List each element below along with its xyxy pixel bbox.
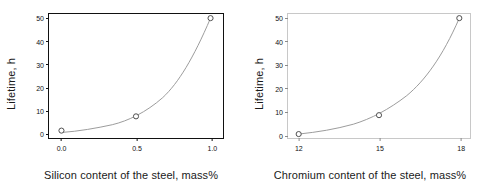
figure-two-panel-charts: Lifetime, h 0 10 20 30 40 50 0.0 0.5 1.0… [0,0,492,187]
y-tick-label: 40 [275,38,288,45]
y-axis-title-left-text: Lifetime, h [5,58,17,110]
y-tick-label: 50 [36,15,49,22]
data-point-marker [208,16,213,21]
x-tick-label: 18 [457,138,465,152]
plot-area-silicon: 0 10 20 30 40 50 0.0 0.5 1.0 [48,13,224,139]
y-tick-label: 40 [36,38,49,45]
data-point-marker [133,114,138,119]
y-axis-title-right-text: Lifetime, h [253,58,265,110]
chart-panel-chromium: Lifetime, h 0 10 20 30 40 50 12 15 18 Ch… [246,0,492,187]
x-tick-label: 1.0 [208,138,218,152]
data-point-marker [457,16,462,21]
x-axis-title-right: Chromium content of the steel, mass% [254,169,486,181]
y-axis-title-left: Lifetime, h [2,14,20,154]
data-point-marker [59,128,64,133]
y-tick-label: 0 [279,133,288,140]
y-tick-label: 0 [40,131,49,138]
y-tick-label: 30 [275,62,288,69]
chart-panel-silicon: Lifetime, h 0 10 20 30 40 50 0.0 0.5 1.0… [0,0,246,187]
x-tick-label: 12 [295,138,303,152]
plot-svg-silicon [49,14,223,138]
y-tick-label: 10 [275,109,288,116]
data-point-marker [296,132,301,137]
y-axis-title-right: Lifetime, h [250,14,268,154]
x-tick-label: 15 [376,138,384,152]
y-tick-label: 30 [36,61,49,68]
y-tick-label: 20 [275,85,288,92]
x-axis-title-left: Silicon content of the steel, mass% [20,169,242,181]
plot-svg-chromium [288,14,470,138]
y-tick-label: 10 [36,108,49,115]
y-tick-label: 20 [36,85,49,92]
x-tick-label: 0.0 [57,138,67,152]
y-tick-label: 50 [275,15,288,22]
data-point-marker [376,113,381,118]
plot-area-chromium: 0 10 20 30 40 50 12 15 18 [287,13,471,139]
x-tick-label: 0.5 [132,138,142,152]
